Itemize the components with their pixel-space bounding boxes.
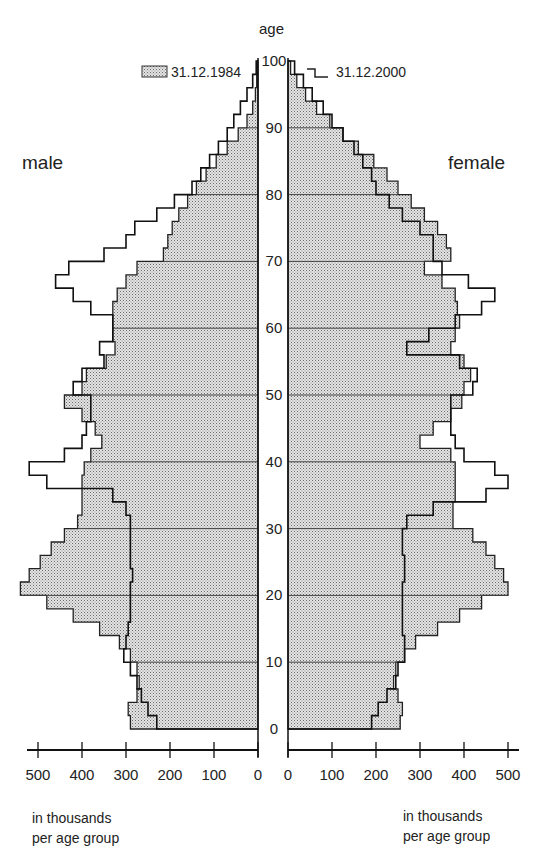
x-tick-right-200: 200	[363, 766, 388, 783]
legend-swatch-1984	[142, 66, 167, 77]
legend-swatch-2000	[307, 69, 328, 77]
x-tick-right-0: 0	[284, 766, 292, 783]
unit-note-left: in thousands per age group	[32, 808, 119, 848]
age-tick-10: 10	[265, 653, 284, 670]
unit-note-left-line1: in thousands	[32, 808, 119, 828]
legend-label-2000: 31.12.2000	[336, 64, 406, 80]
x-tick-right-500: 500	[495, 766, 520, 783]
male-label: male	[22, 152, 63, 174]
age-tick-60: 60	[265, 319, 284, 336]
legend-label-1984: 31.12.1984	[171, 64, 241, 80]
x-tick-left-400: 400	[69, 766, 94, 783]
x-tick-left-500: 500	[25, 766, 50, 783]
x-tick-left-0: 0	[254, 766, 262, 783]
x-tick-right-400: 400	[451, 766, 476, 783]
age-tick-40: 40	[265, 453, 284, 470]
x-tick-left-100: 100	[201, 766, 226, 783]
age-tick-0: 0	[269, 720, 279, 737]
age-tick-20: 20	[265, 586, 284, 603]
unit-note-right: in thousands per age group	[403, 806, 490, 846]
age-tick-100: 100	[260, 52, 287, 69]
x-tick-right-100: 100	[319, 766, 344, 783]
age-tick-90: 90	[265, 119, 284, 136]
age-axis-title: age	[259, 20, 284, 37]
age-tick-30: 30	[265, 520, 284, 537]
age-tick-80: 80	[265, 186, 284, 203]
age-tick-70: 70	[265, 252, 284, 269]
x-tick-right-300: 300	[407, 766, 432, 783]
unit-note-right-line1: in thousands	[403, 806, 490, 826]
age-tick-50: 50	[265, 386, 284, 403]
unit-note-right-line2: per age group	[403, 826, 490, 846]
female-label: female	[448, 152, 505, 174]
x-tick-left-300: 300	[113, 766, 138, 783]
unit-note-left-line2: per age group	[32, 828, 119, 848]
x-tick-left-200: 200	[157, 766, 182, 783]
